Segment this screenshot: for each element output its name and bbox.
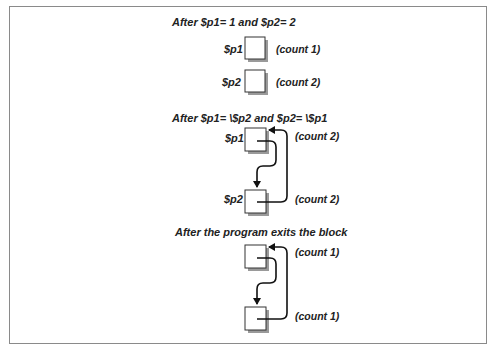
panel-1-box-1-count: (count 1) xyxy=(276,43,321,55)
panel-3-box-2-count: (count 1) xyxy=(295,310,340,322)
panel-1-box-2-label: $p2 xyxy=(221,76,241,88)
panel-3: After the program exits the block (count… xyxy=(174,226,348,333)
panel-1-box-1 xyxy=(245,37,265,59)
panel-3-title: After the program exits the block xyxy=(174,226,348,238)
panel-2-title: After $p1= \$p2 and $p2= \$p1 xyxy=(171,112,327,124)
panel-3-box-1 xyxy=(245,245,266,268)
panel-1-box-2-count: (count 2) xyxy=(276,76,321,88)
panel-1-title: After $p1= 1 and $p2= 2 xyxy=(171,16,296,28)
panel-3-box-1-count: (count 1) xyxy=(295,246,340,258)
panel-2-box-1 xyxy=(245,128,266,151)
panel-1: After $p1= 1 and $p2= 2 $p1 (count 1) $p… xyxy=(171,16,321,95)
panel-1-box-2 xyxy=(245,70,265,92)
panel-2-box-1-label: $p1 xyxy=(224,132,244,144)
panel-2-box-1-count: (count 2) xyxy=(295,130,340,142)
panel-1-box-1-label: $p1 xyxy=(223,43,243,55)
panel-2-box-2-count: (count 2) xyxy=(295,193,340,205)
panel-2-box-2-label: $p2 xyxy=(223,193,243,205)
panel-2: After $p1= \$p2 and $p2= \$p1 $p1 (count… xyxy=(171,112,340,216)
reference-count-diagram: After $p1= 1 and $p2= 2 $p1 (count 1) $p… xyxy=(0,0,496,352)
